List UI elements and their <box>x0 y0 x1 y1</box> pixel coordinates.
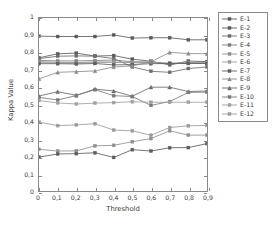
legend-item-e-3[interactable]: E-3 <box>219 32 267 41</box>
data-point-marker <box>187 38 190 41</box>
y-axis-tick <box>39 123 42 124</box>
y-axis-tick <box>204 123 207 124</box>
data-point-marker <box>206 62 207 65</box>
legend-label: E-3 <box>240 33 250 39</box>
data-point-marker <box>206 38 207 41</box>
legend-item-e-2[interactable]: E-2 <box>219 24 267 33</box>
y-axis-tick <box>204 71 207 72</box>
x-axis-tick <box>39 18 40 21</box>
x-axis-tick <box>209 18 210 21</box>
series-e-13 <box>39 129 207 152</box>
legend-item-e-7[interactable]: E-7 <box>219 67 267 76</box>
x-axis-tick <box>96 18 97 21</box>
legend-swatch-icon <box>221 101 238 109</box>
x-tick-label: 0,8 <box>184 195 194 201</box>
y-tick-label: 0 <box>30 189 34 195</box>
series-e-1 <box>39 33 207 41</box>
series-e-14 <box>39 142 207 159</box>
legend-item-e-1[interactable]: E-1 <box>219 15 267 24</box>
data-point-marker <box>228 35 231 38</box>
y-tick-label: 0,7 <box>24 66 34 72</box>
x-tick-label: 0,7 <box>165 195 175 201</box>
data-point-marker <box>228 44 231 47</box>
legend-label: E-11 <box>240 102 254 108</box>
legend-item-e-8[interactable]: E-8 <box>219 75 267 84</box>
x-axis-tick <box>133 18 134 21</box>
x-axis-tick <box>209 188 210 191</box>
data-point-marker <box>187 146 190 149</box>
y-tick-label: 0,6 <box>24 84 34 90</box>
legend-item-e-4[interactable]: E-4 <box>219 41 267 50</box>
data-point-marker <box>112 101 115 104</box>
legend-label: E-10 <box>240 94 254 100</box>
legend-label: E-8 <box>240 76 250 82</box>
y-axis-tick <box>204 106 207 107</box>
data-point-marker <box>131 140 134 143</box>
x-tick-label: 0,6 <box>146 195 156 201</box>
legend-swatch-icon <box>221 58 238 66</box>
data-point-marker <box>75 152 78 155</box>
y-axis-tick <box>204 88 207 89</box>
plot-series-canvas <box>39 18 207 191</box>
x-tick-label: 0,4 <box>109 195 119 201</box>
x-axis-tick <box>115 18 116 21</box>
data-point-marker <box>75 94 78 97</box>
data-point-marker <box>187 101 190 104</box>
data-point-marker <box>131 129 134 132</box>
data-point-marker <box>168 129 171 132</box>
y-tick-label: 0,9 <box>24 31 34 37</box>
series-e-10 <box>39 88 207 107</box>
data-point-marker <box>150 137 153 140</box>
x-axis-tick <box>133 188 134 191</box>
data-point-marker <box>150 104 153 107</box>
data-point-marker <box>187 91 190 94</box>
legend-label: E-2 <box>240 25 250 31</box>
data-point-marker <box>228 69 231 72</box>
series-e-11 <box>39 99 207 105</box>
legend-item-e-12[interactable]: E-12 <box>219 110 267 119</box>
data-point-marker <box>131 95 134 98</box>
data-point-marker <box>150 70 153 73</box>
y-tick-label: 0,4 <box>24 119 34 125</box>
series-e-8 <box>39 51 207 81</box>
legend-swatch-icon <box>221 84 238 92</box>
data-point-marker <box>94 35 97 38</box>
x-axis-tick <box>171 188 172 191</box>
series-line <box>39 64 207 65</box>
plot-area <box>38 17 208 192</box>
data-point-marker <box>112 156 115 159</box>
y-tick-label: 0,5 <box>24 101 34 107</box>
legend-item-e-9[interactable]: E-9 <box>219 84 267 93</box>
legend-swatch-icon <box>221 93 238 101</box>
legend-item-e-6[interactable]: E-6 <box>219 58 267 67</box>
data-point-marker <box>206 134 207 137</box>
data-point-marker <box>131 100 134 103</box>
y-tick-label: 0,1 <box>24 171 34 177</box>
x-axis-title: Threshold <box>38 205 208 213</box>
x-axis-tick <box>39 188 40 191</box>
x-axis-tick <box>77 188 78 191</box>
y-axis-tick-labels: 00,10,20,30,40,50,60,70,80,91 <box>0 17 34 192</box>
x-tick-label: 0,5 <box>128 195 138 201</box>
x-axis-tick <box>77 18 78 21</box>
legend-item-e-5[interactable]: E-5 <box>219 49 267 58</box>
x-axis-tick <box>58 18 59 21</box>
legend-item-e-10[interactable]: E-10 <box>219 92 267 101</box>
legend-swatch-icon <box>221 50 238 58</box>
y-axis-tick <box>204 158 207 159</box>
data-point-marker <box>228 61 231 64</box>
legend-label: E-12 <box>240 111 254 117</box>
legend-swatch-icon <box>221 24 238 32</box>
data-point-marker <box>228 112 231 115</box>
data-point-marker <box>94 88 97 91</box>
data-point-marker <box>168 126 171 129</box>
y-axis-tick <box>204 53 207 54</box>
x-axis-tick <box>152 18 153 21</box>
data-point-marker <box>94 122 97 125</box>
data-point-marker <box>56 150 59 153</box>
data-point-marker <box>56 124 59 127</box>
data-point-marker <box>112 144 115 147</box>
legend-item-e-11[interactable]: E-11 <box>219 101 267 110</box>
y-axis-tick <box>39 36 42 37</box>
x-axis-tick <box>171 18 172 21</box>
